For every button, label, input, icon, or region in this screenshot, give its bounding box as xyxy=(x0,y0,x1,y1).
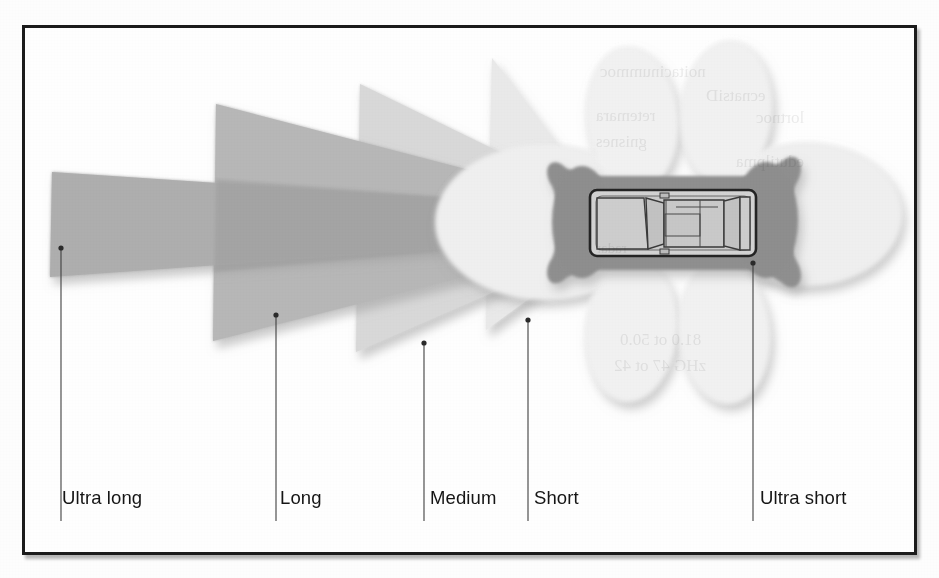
label-medium: Medium xyxy=(430,487,496,509)
label-ultra-short: Ultra short xyxy=(760,487,846,509)
label-short: Short xyxy=(534,487,579,509)
label-long: Long xyxy=(280,487,322,509)
radar-range-figure: noitacinummocecnatsiDretemaralortnocgnis… xyxy=(0,0,939,578)
label-ultra-long: Ultra long xyxy=(62,487,142,509)
figure-frame xyxy=(22,25,917,555)
